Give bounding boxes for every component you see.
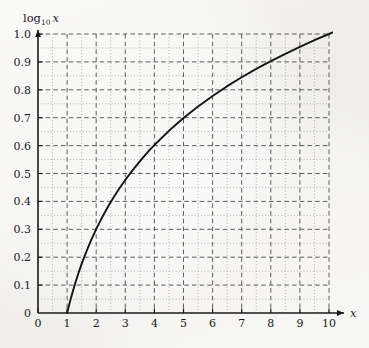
x-tick-label: 4: [151, 317, 158, 330]
x-tick-label: 3: [122, 317, 129, 330]
y-tick-label: 0.7: [14, 112, 32, 125]
y-tick-labels: 00.10.20.30.40.50.60.70.80.91.0: [14, 28, 32, 320]
x-tick-label: 7: [238, 317, 245, 330]
log-plot-figure: 012345678910 00.10.20.30.40.50.60.70.80.…: [0, 0, 369, 348]
x-tick-label: 8: [267, 317, 274, 330]
x-tick-label: 10: [322, 317, 336, 330]
y-tick-label: 0.3: [14, 223, 32, 236]
x-tick-labels: 012345678910: [35, 317, 337, 330]
x-tick-label: 2: [93, 317, 100, 330]
y-tick-label: 0: [24, 307, 31, 320]
x-tick-label: 1: [64, 317, 71, 330]
x-tick-label: 9: [296, 317, 303, 330]
y-tick-label: 0.8: [14, 84, 32, 97]
y-axis-label: log10x: [23, 11, 60, 27]
y-tick-label: 0.4: [14, 195, 32, 208]
log-curve: [67, 31, 335, 313]
x-axis-label: x: [350, 306, 357, 320]
y-tick-label: 0.2: [14, 251, 32, 264]
plot-svg: 012345678910 00.10.20.30.40.50.60.70.80.…: [0, 0, 369, 348]
x-tick-label: 6: [209, 317, 216, 330]
x-tick-label: 0: [35, 317, 42, 330]
y-tick-label: 0.5: [14, 168, 32, 181]
x-tick-label: 5: [180, 317, 187, 330]
y-tick-label: 0.6: [14, 140, 32, 153]
y-tick-label: 0.9: [14, 56, 32, 69]
y-tick-label: 0.1: [14, 279, 32, 292]
y-tick-label: 1.0: [14, 28, 32, 41]
x-axis-arrow: [337, 310, 344, 316]
